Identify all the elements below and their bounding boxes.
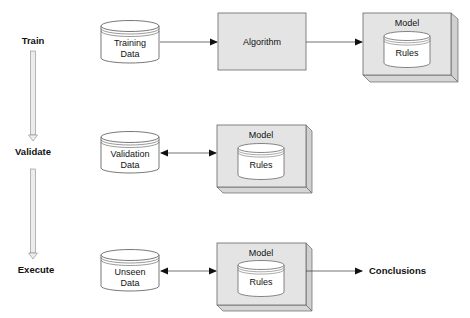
unseen-data-label-line1: Unseen xyxy=(114,267,145,277)
training-data-label-line2: Data xyxy=(120,49,139,59)
rules-label: Rules xyxy=(395,48,419,58)
rules-store: Rules xyxy=(238,144,284,180)
training-data-label-line1: Training xyxy=(114,38,146,48)
rules-store: Rules xyxy=(384,32,430,68)
trained-model-box: Model Rules xyxy=(363,13,458,82)
validation-data-label-line2: Data xyxy=(120,160,139,170)
algorithm-process-box: Algorithm xyxy=(218,13,306,70)
stage-label-execute: Execute xyxy=(18,264,54,275)
model-title: Model xyxy=(249,130,274,140)
training-data-store: Training Data xyxy=(101,21,159,64)
ml-workflow-diagram: Train Validate Execute Training Data Alg… xyxy=(0,0,470,318)
execution-model-box: Model Rules xyxy=(217,243,312,311)
validation-data-label-line1: Validation xyxy=(111,149,150,159)
stage-label-train: Train xyxy=(22,35,45,46)
algorithm-label: Algorithm xyxy=(243,37,281,47)
validation-data-store: Validation Data xyxy=(101,132,159,174)
model-title: Model xyxy=(395,18,420,28)
stage-label-validate: Validate xyxy=(15,146,51,157)
rules-label: Rules xyxy=(249,277,273,287)
stage-arrow-validate-to-execute xyxy=(29,169,38,259)
conclusions-label: Conclusions xyxy=(369,265,426,276)
rules-label: Rules xyxy=(249,160,273,170)
model-title: Model xyxy=(249,248,274,258)
unseen-data-store: Unseen Data xyxy=(101,250,159,292)
unseen-data-label-line2: Data xyxy=(120,278,139,288)
validation-model-box: Model Rules xyxy=(217,125,312,193)
rules-store: Rules xyxy=(238,261,284,297)
stage-arrow-train-to-validate xyxy=(29,51,38,141)
